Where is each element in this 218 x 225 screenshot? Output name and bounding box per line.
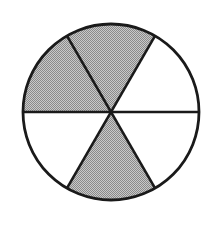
pie-chart-svg: [0, 0, 218, 225]
fraction-circle-figure: Circle divided into six equal sectors wi…: [0, 0, 218, 225]
